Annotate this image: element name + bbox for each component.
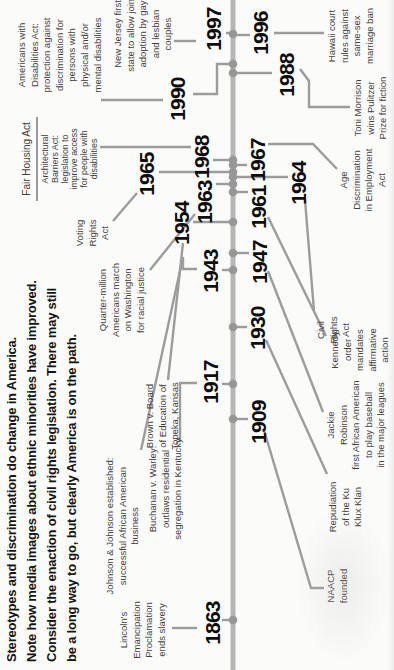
- event-label-jackie: Jackie Robinson first African American t…: [325, 369, 388, 481]
- year-marker-1990: 1990: [166, 77, 190, 121]
- timeline-dot: [229, 30, 238, 39]
- event-label-toni: Toni Morrison wins Pulitzer Prize for fi…: [352, 67, 390, 149]
- year-marker-1996: 1996: [249, 11, 273, 55]
- timeline-dot: [229, 60, 238, 69]
- year-marker-1863: 1863: [201, 601, 225, 645]
- timeline-page: Stereotypes and discrimination do change…: [0, 0, 394, 670]
- year-marker-1943: 1943: [199, 249, 223, 293]
- year-marker-1947: 1947: [248, 240, 272, 284]
- event-label-age: Age Discrimination in Employment Act: [338, 137, 388, 223]
- connector-vra: [113, 193, 137, 221]
- event-label-kkk: Repudiation of the Ku Klux Klan: [327, 472, 365, 542]
- timeline-dot: [229, 323, 238, 332]
- year-marker-1917: 1917: [199, 360, 223, 404]
- event-label-brown: Brown v. Board of Education of Topeka, K…: [144, 373, 182, 459]
- event-label-lincoln: Lincoln's Emancipation Proclamation ends…: [118, 590, 168, 670]
- connector-toni: [300, 69, 350, 107]
- year-marker-1968: 1968: [190, 135, 214, 179]
- year-marker-1954: 1954: [170, 201, 194, 245]
- event-label-cra: Civil Rights Act: [315, 310, 353, 350]
- timeline-dot: [229, 616, 238, 625]
- year-marker-1909: 1909: [247, 400, 271, 444]
- year-elbow-1990: [193, 64, 231, 94]
- connector-kkk: [266, 340, 327, 474]
- event-label-aba: Architectural Barriers Act: legislation …: [41, 118, 100, 200]
- year-marker-1964: 1964: [287, 161, 311, 205]
- event-label-ada: Americans with Disabilities Act: protect…: [16, 7, 104, 104]
- timeline-dot: [229, 380, 238, 389]
- timeline-dot: [229, 156, 238, 165]
- year-marker-1961: 1961: [247, 185, 271, 229]
- year-marker-1997: 1997: [202, 7, 226, 51]
- event-label-naacp: NAACP founded: [325, 559, 350, 614]
- event-label-march: Quarter-million Americans march on Washi…: [97, 253, 147, 348]
- connector-naacp: [264, 430, 324, 588]
- timeline-dot: [229, 249, 238, 258]
- event-label-nj: New Jersey first state to allow joint ad…: [112, 0, 175, 82]
- timeline-stage: Stereotypes and discrimination do change…: [0, 0, 394, 670]
- timeline-dot: [229, 69, 238, 78]
- event-label-jj: Johnson & Johnson established: successfu…: [104, 450, 142, 602]
- year-marker-1967: 1967: [246, 138, 270, 182]
- event-label-fha: Fair Housing Act: [20, 113, 33, 205]
- year-marker-1988: 1988: [275, 53, 299, 97]
- timeline-dot: [229, 415, 238, 424]
- year-marker-1963: 1963: [193, 180, 217, 224]
- event-label-hawaii: Hawaii court rules against same-sex marr…: [326, 0, 376, 73]
- timeline-dot: [229, 218, 238, 227]
- event-label-vra: Voting Rights Act: [74, 211, 112, 256]
- timeline-dot: [229, 188, 238, 197]
- timeline-dot: [229, 266, 238, 275]
- year-marker-1965: 1965: [135, 152, 159, 196]
- year-marker-1930: 1930: [246, 306, 270, 350]
